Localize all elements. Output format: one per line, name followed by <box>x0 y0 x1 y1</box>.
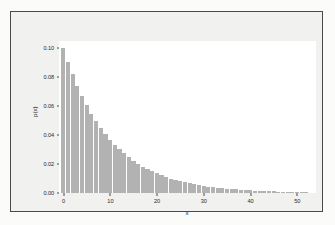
histogram-bar <box>75 86 79 193</box>
histogram-bar <box>122 153 126 193</box>
plot-area <box>59 41 316 193</box>
figure-root: p(x) 0.000.020.040.060.080.10 x 01020304… <box>0 0 335 225</box>
histogram-bar <box>66 62 70 193</box>
x-axis: x 01020304050 <box>11 193 335 225</box>
histogram-bar <box>155 173 159 193</box>
histogram-bar <box>141 167 145 193</box>
x-tick-label: 30 <box>201 198 207 204</box>
histogram-bar <box>85 105 89 193</box>
histogram-bar <box>150 171 154 193</box>
histogram-bar <box>131 161 135 193</box>
histogram-bar <box>169 179 173 193</box>
histogram-bar <box>80 96 84 193</box>
x-tick-label: 40 <box>247 198 253 204</box>
x-tick-mark <box>63 193 64 196</box>
histogram-bar <box>197 185 201 193</box>
histogram-bar <box>178 181 182 193</box>
histogram-bar <box>103 134 107 193</box>
histogram-bar <box>113 145 117 193</box>
histogram-bar <box>164 177 168 193</box>
histogram-bar <box>61 48 65 193</box>
histogram-bar <box>136 164 140 193</box>
y-tick-label: 0.02 <box>44 161 55 167</box>
x-axis-title: x <box>185 209 188 216</box>
x-tick-label: 10 <box>107 198 113 204</box>
y-tick-label: 0.10 <box>44 45 55 51</box>
y-tick-label: 0.08 <box>44 74 55 80</box>
histogram-bar <box>117 149 121 193</box>
histogram-bar <box>94 121 98 193</box>
y-axis-title: p(x) <box>31 106 38 117</box>
x-tick-label: 20 <box>154 198 160 204</box>
histogram-bar <box>108 140 112 193</box>
x-tick-label: 0 <box>62 198 65 204</box>
x-tick-mark <box>110 193 111 196</box>
histogram-bar <box>188 183 192 193</box>
histogram-bar <box>202 186 206 193</box>
histogram-bars <box>59 41 316 193</box>
histogram-bar <box>183 182 187 193</box>
histogram-bar <box>99 128 103 193</box>
histogram-bar <box>145 169 149 193</box>
x-tick-mark <box>297 193 298 196</box>
histogram-bar <box>127 157 131 193</box>
x-tick-mark <box>157 193 158 196</box>
histogram-bar <box>173 180 177 193</box>
histogram-bar <box>89 114 93 193</box>
x-tick-mark <box>203 193 204 196</box>
histogram-bar <box>159 175 163 193</box>
x-tick-mark <box>250 193 251 196</box>
y-tick-label: 0.04 <box>44 132 55 138</box>
histogram-bar <box>71 74 75 193</box>
x-tick-label: 50 <box>294 198 300 204</box>
histogram-bar <box>192 184 196 193</box>
figure-frame: p(x) 0.000.020.040.060.080.10 x 01020304… <box>10 11 323 212</box>
y-tick-label: 0.06 <box>44 103 55 109</box>
